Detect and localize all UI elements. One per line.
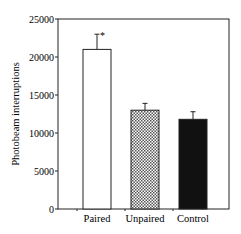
y-tick-label: 15000 xyxy=(29,90,54,101)
bar-control xyxy=(179,119,207,209)
y-tick-label: 10000 xyxy=(29,128,54,139)
x-tick-label: Control xyxy=(177,213,209,224)
bar-paired xyxy=(83,49,111,209)
bar-chart: 0500010000150002000025000 * PairedUnpair… xyxy=(0,0,241,234)
y-axis-label: Photobeam interruptions xyxy=(10,62,21,166)
y-tick-label: 5000 xyxy=(34,166,54,177)
bars: * xyxy=(77,30,207,211)
y-tick-label: 25000 xyxy=(29,14,54,25)
bar-unpaired xyxy=(131,110,159,209)
x-tick-label: Paired xyxy=(84,213,112,224)
y-tick-label: 20000 xyxy=(29,52,54,63)
x-axis-labels: PairedUnpairedControl xyxy=(84,213,210,224)
y-tick-label: 0 xyxy=(49,204,54,215)
y-axis: 0500010000150002000025000 xyxy=(29,14,58,215)
x-tick-label: Unpaired xyxy=(125,213,165,224)
significance-marker: * xyxy=(100,30,105,41)
